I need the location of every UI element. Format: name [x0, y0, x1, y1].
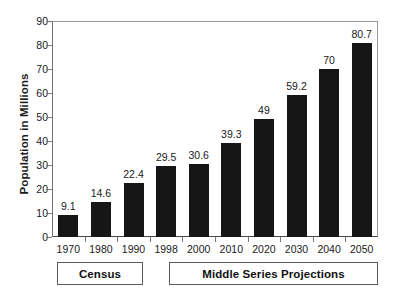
- bar-value-label: 22.4: [114, 169, 154, 180]
- group-box-projections-label: Middle Series Projections: [202, 268, 344, 280]
- bar: [352, 43, 372, 237]
- y-axis-tick-label: 80: [22, 40, 48, 50]
- bar-value-label: 39.3: [211, 129, 251, 140]
- x-axis-tick-mark: [345, 237, 346, 242]
- x-axis-tick-mark: [280, 237, 281, 242]
- bar: [189, 164, 209, 237]
- bar: [156, 166, 176, 237]
- y-axis-tick-label: 20: [22, 184, 48, 194]
- group-box-census: Census: [57, 262, 143, 285]
- bar: [254, 119, 274, 237]
- y-axis-tick-label: 10: [22, 208, 48, 218]
- bar: [58, 215, 78, 237]
- y-axis-tick-label: 30: [22, 160, 48, 170]
- bar-value-label: 9.1: [48, 201, 88, 212]
- x-axis-tick-mark: [313, 237, 314, 242]
- bar: [124, 183, 144, 237]
- bar-chart-figure: Population in Millions 01020304050607080…: [0, 0, 395, 298]
- bar: [221, 143, 241, 237]
- group-box-projections: Middle Series Projections: [169, 262, 378, 285]
- bar: [287, 95, 307, 237]
- bar-value-label: 30.6: [179, 150, 219, 161]
- bar-value-label: 49: [244, 105, 284, 116]
- y-axis-tick-label: 90: [22, 16, 48, 26]
- bar-value-label: 70: [309, 55, 349, 66]
- bar: [319, 69, 339, 237]
- x-axis-tick-label: 2050: [342, 243, 382, 255]
- y-axis-tick-label: 40: [22, 136, 48, 146]
- bar-value-label: 59.2: [277, 81, 317, 92]
- y-axis-tick-label: 60: [22, 88, 48, 98]
- bar-value-label: 14.6: [81, 188, 121, 199]
- bar-value-label: 80.7: [342, 29, 382, 40]
- x-axis-tick-mark: [150, 237, 151, 242]
- bar: [91, 202, 111, 237]
- x-axis-tick-mark: [248, 237, 249, 242]
- y-axis-tick-label: 0: [22, 232, 48, 242]
- x-axis-tick-mark: [182, 237, 183, 242]
- y-axis-tick-mark: [46, 237, 52, 238]
- x-axis-tick-mark: [85, 237, 86, 242]
- x-axis-tick-mark: [117, 237, 118, 242]
- x-axis-tick-mark: [215, 237, 216, 242]
- group-box-census-label: Census: [79, 268, 121, 280]
- y-axis-tick-label: 50: [22, 112, 48, 122]
- y-axis-tick-label: 70: [22, 64, 48, 74]
